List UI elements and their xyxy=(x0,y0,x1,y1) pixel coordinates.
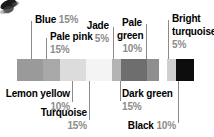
callout-turquoise-percent: 15% xyxy=(67,120,87,131)
leader-line-jade xyxy=(113,27,114,61)
callout-turquoise-name: Turquoise xyxy=(41,107,87,118)
callout-dark-green: Dark green 15% xyxy=(122,86,173,112)
callout-dark-green-name: Dark green xyxy=(122,88,173,99)
callout-bright-turquoise-percent: 5% xyxy=(172,39,186,50)
callout-dark-green-percent: 15% xyxy=(122,101,142,112)
bar-segment-turquoise xyxy=(86,59,112,81)
callout-jade-percent: 5% xyxy=(95,33,109,44)
callout-black-name: Black xyxy=(128,120,154,131)
leader-line-lemon-yellow xyxy=(72,79,73,102)
leader-line-pale-pink xyxy=(46,38,47,61)
callout-bright-turquoise: Bright turquoise 5% xyxy=(172,11,214,50)
callout-pale-green: Pale green 10% xyxy=(117,15,142,54)
leader-line-pale-green xyxy=(146,24,147,61)
callout-bright-turquoise-name-line2: turquoise xyxy=(172,26,214,37)
callout-bright-turquoise-name-line1: Bright xyxy=(172,13,201,24)
bar-segment-blue xyxy=(17,59,43,81)
callout-blue-percent: 15% xyxy=(59,14,79,25)
bar-segment-pale-pink xyxy=(60,59,86,81)
callout-pale-green-name-line2: green xyxy=(117,30,143,41)
leader-line-black xyxy=(178,79,179,123)
bar-segment-pale-green xyxy=(147,59,159,81)
bar-segment-lemon-yellow xyxy=(43,59,60,81)
callout-lemon-yellow-name: Lemon yellow xyxy=(6,88,70,99)
callout-black-percent: 10% xyxy=(156,120,176,131)
leader-line-turquoise xyxy=(89,79,90,120)
callout-turquoise: Turquoise 15% xyxy=(34,105,87,131)
leader-line-dark-green xyxy=(120,79,121,101)
corner-smudge-artifact xyxy=(0,0,22,16)
callout-pale-green-name-line1: Pale xyxy=(122,17,142,28)
callout-pale-green-percent: 10% xyxy=(122,43,142,54)
bar-segment-jade xyxy=(112,59,121,81)
callout-blue: Blue 15% xyxy=(35,12,78,25)
palette-proportion-bar xyxy=(17,59,194,81)
leader-line-bright-turquoise xyxy=(168,20,169,61)
callout-jade: Jade 5% xyxy=(80,18,109,44)
callout-blue-name: Blue xyxy=(35,14,56,25)
bar-segment-bright-turquoise xyxy=(167,59,176,81)
figure-canvas: Blue 15% Pale pink 15% Jade 5% Pale gree… xyxy=(0,0,214,137)
bar-segment-gap xyxy=(159,59,167,81)
callout-jade-name: Jade xyxy=(87,20,109,31)
bar-segment-black xyxy=(176,59,194,81)
leader-line-blue xyxy=(31,21,32,61)
bar-segment-dark-green xyxy=(121,59,147,81)
callout-pale-pink-percent: 15% xyxy=(50,44,70,55)
callout-black: Black 10% xyxy=(118,118,176,131)
